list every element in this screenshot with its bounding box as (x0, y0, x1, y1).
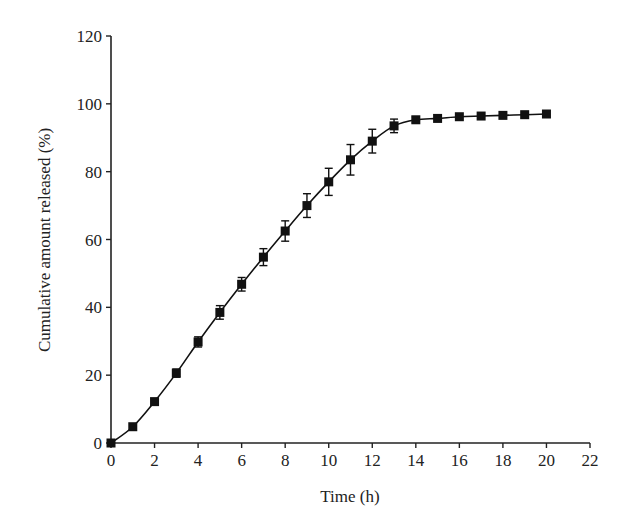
y-tick-label: 100 (77, 95, 103, 114)
data-point-marker (259, 253, 268, 262)
data-point-marker (477, 112, 486, 121)
chart-canvas: 0204060801001200246810121416182022 Time … (0, 0, 633, 528)
data-point-marker (368, 137, 377, 146)
data-point-marker (346, 155, 355, 164)
y-tick-label: 120 (77, 27, 103, 46)
x-tick-label: 18 (494, 451, 511, 470)
series-line (111, 114, 546, 443)
data-point-marker (150, 397, 159, 406)
y-tick-label: 0 (94, 434, 103, 453)
x-tick-label: 12 (364, 451, 381, 470)
y-tick-label: 40 (85, 298, 102, 317)
y-tick-label: 80 (85, 163, 102, 182)
y-axis-label: Cumulative amount released (%) (35, 128, 54, 352)
data-point-marker (107, 439, 116, 448)
x-tick-label: 4 (194, 451, 203, 470)
data-point-marker (172, 369, 181, 378)
x-tick-label: 20 (538, 451, 555, 470)
data-point-marker (128, 422, 137, 431)
data-point-marker (281, 227, 290, 236)
data-point-marker (433, 114, 442, 123)
x-tick-label: 8 (281, 451, 290, 470)
x-tick-label: 16 (451, 451, 468, 470)
x-tick-label: 0 (107, 451, 116, 470)
x-tick-label: 14 (407, 451, 425, 470)
data-point-marker (520, 110, 529, 119)
data-point-marker (390, 121, 399, 130)
x-tick-label: 6 (237, 451, 246, 470)
data-point-marker (302, 201, 311, 210)
data-point-marker (215, 308, 224, 317)
y-tick-label: 60 (85, 231, 102, 250)
x-tick-label: 10 (320, 451, 337, 470)
data-point-marker (498, 111, 507, 120)
data-point-marker (411, 115, 420, 124)
data-point-marker (324, 177, 333, 186)
data-point-marker (237, 280, 246, 289)
x-tick-label: 2 (150, 451, 159, 470)
y-tick-label: 20 (85, 366, 102, 385)
data-point-marker (542, 110, 551, 119)
x-tick-label: 22 (582, 451, 599, 470)
release-chart: 0204060801001200246810121416182022 Time … (0, 0, 633, 528)
data-point-marker (194, 337, 203, 346)
x-axis-label: Time (h) (320, 487, 379, 506)
plot-area (107, 110, 551, 448)
data-point-marker (455, 112, 464, 121)
